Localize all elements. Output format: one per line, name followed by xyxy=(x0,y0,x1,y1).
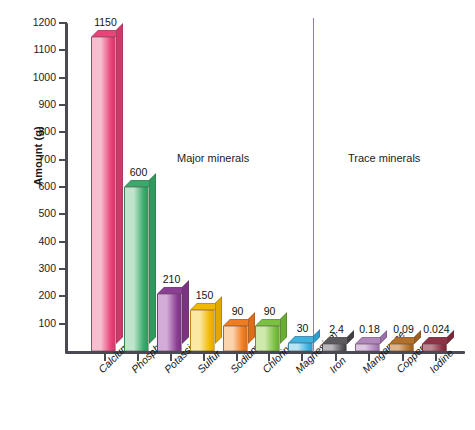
y-axis-tick-label-wrap: 1100 xyxy=(16,43,56,55)
bar-calcium[interactable] xyxy=(91,37,116,351)
y-axis-tick-label-wrap: 800 xyxy=(16,125,56,137)
bar-sodium[interactable] xyxy=(223,326,248,351)
y-axis-tick xyxy=(59,22,67,24)
bar-front-face xyxy=(124,187,149,351)
bar-value-label: 0.024 xyxy=(415,323,458,335)
major-minerals-caption: Major minerals xyxy=(177,152,249,164)
bar-front-face xyxy=(255,326,280,351)
y-axis-tick-label: 800 xyxy=(22,125,56,137)
y-axis-tick-label: 100 xyxy=(22,317,56,329)
y-axis-tick-label: 400 xyxy=(22,235,56,247)
trace-minerals-caption: Trace minerals xyxy=(348,152,420,164)
y-axis-tick-label-wrap: 200 xyxy=(16,289,56,301)
y-axis-tick-label: 1200 xyxy=(22,16,56,28)
bar-side-face xyxy=(215,296,222,344)
y-axis-tick xyxy=(59,104,67,106)
bar-side-face xyxy=(149,173,156,344)
bar-phosphorus[interactable] xyxy=(124,187,149,351)
y-axis-tick-label: 600 xyxy=(22,180,56,192)
y-axis-tick xyxy=(59,77,67,79)
y-axis-tick-label: 200 xyxy=(22,289,56,301)
y-axis-tick-label: 900 xyxy=(22,98,56,110)
y-axis-tick-label-wrap: 1200 xyxy=(16,16,56,28)
y-axis-tick xyxy=(59,268,67,270)
y-axis-tick-label-wrap: 100 xyxy=(16,317,56,329)
y-axis-tick-label-wrap: 400 xyxy=(16,235,56,247)
bar-front-face xyxy=(322,344,347,351)
bar-value-label: 1150 xyxy=(84,16,127,28)
bar-potassium[interactable] xyxy=(157,294,182,351)
y-axis-tick xyxy=(59,131,67,133)
y-axis-line xyxy=(65,23,68,353)
y-axis-tick xyxy=(59,213,67,215)
bar-front-face xyxy=(157,294,182,351)
x-axis-label-iron: Iron xyxy=(326,354,347,375)
y-axis-tick xyxy=(59,295,67,297)
bar-value-label: 600 xyxy=(117,166,160,178)
bar-side-face xyxy=(116,23,123,344)
y-axis-tick xyxy=(59,323,67,325)
bar-value-label: 90 xyxy=(248,305,291,317)
y-axis-tick xyxy=(59,186,67,188)
bar-front-face xyxy=(190,310,215,351)
y-axis-tick-label-wrap: 500 xyxy=(16,207,56,219)
mineral-amount-bar-chart: Amount (g) 12001100100090080070060050040… xyxy=(0,0,475,430)
bar-front-face xyxy=(91,37,116,351)
y-axis-tick-label: 1100 xyxy=(22,43,56,55)
y-axis-tick xyxy=(59,241,67,243)
y-axis-tick-label: 1000 xyxy=(22,71,56,83)
y-axis-tick-label-wrap: 300 xyxy=(16,262,56,274)
bar-iron[interactable] xyxy=(322,344,347,351)
group-divider-line xyxy=(313,18,314,352)
y-axis-tick xyxy=(59,49,67,51)
y-axis-tick-label: 300 xyxy=(22,262,56,274)
bar-value-label: 150 xyxy=(183,289,226,301)
y-axis-tick-label-wrap: 1000 xyxy=(16,71,56,83)
y-axis-tick-label-wrap: 900 xyxy=(16,98,56,110)
y-axis-tick-label-wrap: 600 xyxy=(16,180,56,192)
bar-sulfur[interactable] xyxy=(190,310,215,351)
bar-front-face xyxy=(223,326,248,351)
y-axis-tick-label-wrap: 700 xyxy=(16,153,56,165)
bar-value-label: 210 xyxy=(150,273,193,285)
bar-chlorine[interactable] xyxy=(255,326,280,351)
y-axis-tick-label: 500 xyxy=(22,207,56,219)
y-axis-tick xyxy=(59,159,67,161)
y-axis-tick-label: 700 xyxy=(22,153,56,165)
